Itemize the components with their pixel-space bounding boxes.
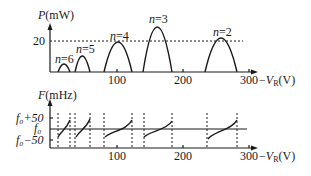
mode-label-n6: n=6 [55, 52, 74, 66]
f-x-tick-100: 100 [108, 149, 126, 163]
p-x-label: −VR(V) [259, 73, 295, 88]
f-x-tick-300: 300 [240, 149, 258, 163]
mode-boundary-lines [58, 113, 237, 148]
power-chart: P(mW) 20 100 200 300 −VR(V) n=6 n=5 n=4 … [33, 8, 295, 88]
p-x-tick-200: 200 [174, 73, 192, 87]
diagram-canvas: P(mW) 20 100 200 300 −VR(V) n=6 n=5 n=4 … [0, 0, 311, 176]
mode-curve-n4 [104, 42, 132, 72]
mode-curve-n2 [205, 38, 237, 72]
mode-curve-n5 [75, 56, 90, 72]
mode-label-n2: n=2 [213, 25, 232, 39]
p-y-axis-arrow-icon [48, 23, 53, 30]
p-x-tick-300: 300 [240, 73, 258, 87]
frequency-chart: F(mHz) f₀+50 f₀ f₀−50 [16, 88, 295, 164]
mode-label-n5: n=5 [76, 42, 95, 56]
f-x-label: −VR(V) [259, 149, 295, 164]
p-x-tick-100: 100 [108, 73, 126, 87]
p-y-label: P(mW) [37, 8, 74, 22]
p-y-tick-20: 20 [33, 34, 45, 48]
f-x-tick-200: 200 [174, 149, 192, 163]
mode-curve-n3 [143, 27, 172, 72]
mode-label-n4: n=4 [110, 29, 129, 43]
mode-label-n3: n=3 [149, 12, 168, 26]
freq-curve-n5 [76, 119, 90, 137]
f-y-tick-minus50: f₀−50 [16, 133, 44, 147]
f-y-label: F(mHz) [37, 88, 77, 102]
